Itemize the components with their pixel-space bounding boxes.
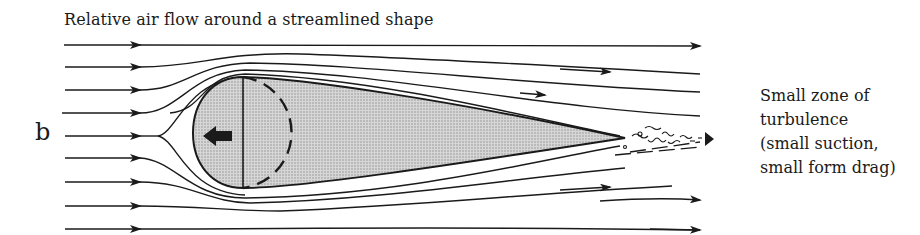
turbulence-wake (624, 127, 703, 149)
airflow-diagram (0, 0, 920, 235)
wake-dashes (615, 142, 700, 155)
wake-arrowhead-icon (705, 132, 714, 146)
streamlined-body (193, 77, 625, 188)
